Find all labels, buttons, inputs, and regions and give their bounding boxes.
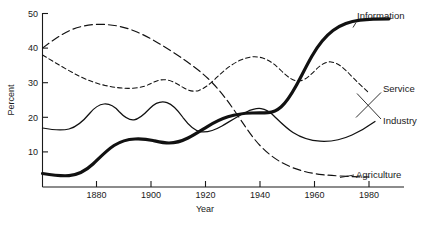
figure-container: 50 40 30 20 10 1880 1900 1920 1940 1960 …: [0, 0, 422, 231]
series-line-industry: [43, 102, 376, 141]
series-label-agriculture: Agriculture: [356, 169, 401, 180]
series-line-service: [43, 55, 370, 93]
x-tick-label-1880: 1880: [86, 190, 106, 200]
x-tick-label-1980: 1980: [359, 190, 379, 200]
line-chart: 50 40 30 20 10 1880 1900 1920 1940 1960 …: [0, 0, 422, 231]
y-axis: [43, 13, 49, 187]
x-axis-title: Year: [196, 204, 214, 214]
y-tick-label-50: 50: [28, 9, 38, 19]
series-label-information: Information: [357, 10, 405, 21]
x-tick-label-1900: 1900: [141, 190, 161, 200]
leader-line-industry: [357, 94, 381, 120]
leader-line-information: [353, 23, 356, 28]
series-line-information: [43, 19, 390, 176]
x-axis: [43, 181, 405, 187]
y-tick-label-30: 30: [28, 78, 38, 88]
y-tick-label-10: 10: [28, 147, 38, 157]
y-tick-label-40: 40: [28, 43, 38, 53]
y-axis-title: Percent: [6, 84, 16, 116]
y-tick-label-20: 20: [28, 113, 38, 123]
series-label-industry: Industry: [383, 115, 417, 126]
series-label-service: Service: [383, 83, 415, 94]
x-tick-label-1940: 1940: [250, 190, 270, 200]
figure-caption-clipped: [0, 222, 422, 231]
x-tick-label-1960: 1960: [304, 190, 324, 200]
x-tick-label-1920: 1920: [195, 190, 215, 200]
series-line-agriculture: [43, 24, 370, 177]
